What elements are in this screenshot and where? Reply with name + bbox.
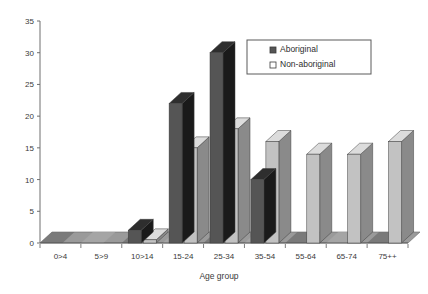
- chart-legend: AboriginalNon-aboriginal: [247, 40, 371, 74]
- legend-marker-non-aboriginal: [270, 62, 276, 68]
- y-axis-tick-label: 15: [25, 144, 34, 153]
- bar-front-face: [169, 103, 182, 243]
- x-axis-category-label: 35-54: [255, 252, 276, 261]
- bar-front-face: [251, 180, 264, 243]
- x-axis-category-label: 75++: [378, 252, 397, 261]
- bar-aboriginal: [210, 42, 235, 243]
- legend-label-aboriginal: Aboriginal: [280, 44, 318, 54]
- bar-side-face: [197, 137, 209, 243]
- y-axis-tick-label: 0: [30, 239, 35, 248]
- x-axis-category-label: 0>4: [54, 252, 68, 261]
- bar-side-face: [361, 143, 373, 243]
- bar-non-aboriginal: [348, 143, 373, 243]
- x-axis-category-label: 10>14: [131, 252, 154, 261]
- y-axis-tick-label: 25: [25, 80, 34, 89]
- y-axis-tick-label: 10: [25, 176, 34, 185]
- x-axis-title: Age group: [199, 271, 238, 281]
- bar-front-face: [210, 53, 223, 243]
- x-axis-category-label: 55-64: [296, 252, 317, 261]
- y-axis-tick-label: 35: [25, 17, 34, 26]
- bar-side-face: [279, 131, 291, 243]
- bar-side-face: [238, 118, 250, 243]
- y-axis-tick-label: 5: [30, 207, 35, 216]
- bar-front-face: [389, 142, 402, 243]
- x-axis-category-label: 65-74: [336, 252, 357, 261]
- bar-front-face: [348, 154, 361, 243]
- y-axis-tick-label: 20: [25, 112, 34, 121]
- x-axis-category-label: 15-24: [173, 252, 194, 261]
- bar-front-face: [307, 154, 320, 243]
- y-axis-tick-label: 30: [25, 49, 34, 58]
- x-axis-category-label: 25-34: [214, 252, 235, 261]
- legend-label-non-aboriginal: Non-aboriginal: [280, 59, 335, 69]
- bar-aboriginal: [169, 92, 194, 243]
- bar-side-face: [264, 169, 276, 243]
- chart-container: 051015202530350>45>910>1415-2425-3435-54…: [0, 0, 428, 294]
- bar-front-face: [128, 230, 141, 243]
- bar-chart: 051015202530350>45>910>1415-2425-3435-54…: [0, 0, 428, 294]
- legend-marker-aboriginal: [270, 47, 276, 53]
- bar-aboriginal: [251, 169, 276, 243]
- bar-side-face: [182, 92, 194, 243]
- x-axis-category-label: 5>9: [95, 252, 109, 261]
- bar-front-face: [143, 240, 156, 243]
- bar-side-face: [402, 131, 414, 243]
- bar-side-face: [320, 143, 332, 243]
- bar-side-face: [223, 42, 235, 243]
- bar-non-aboriginal: [389, 131, 414, 243]
- bar-non-aboriginal: [307, 143, 332, 243]
